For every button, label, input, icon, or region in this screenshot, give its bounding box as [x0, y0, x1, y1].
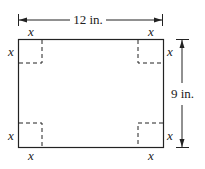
- corner-cut-top-left: [19, 40, 42, 63]
- x-label-top-right: x: [147, 24, 154, 39]
- height-label: 9 in.: [171, 86, 194, 101]
- x-label-top-left: x: [27, 24, 34, 39]
- x-label-bottom-right: x: [147, 148, 154, 163]
- x-label-right-top: x: [166, 44, 173, 59]
- sheet-rectangle: [19, 40, 164, 148]
- x-label-left-top: x: [7, 44, 14, 59]
- width-label: 12 in.: [73, 12, 103, 27]
- corner-cut-bottom-right: [138, 123, 163, 147]
- corner-cut-bottom-left: [19, 123, 42, 147]
- x-label-bottom-left: x: [27, 148, 34, 163]
- rectangle-diagram: 12 in. 9 in. x x x x x x x x: [0, 0, 205, 169]
- x-label-right-bottom: x: [166, 128, 173, 143]
- corner-cut-top-right: [138, 40, 163, 63]
- x-label-left-bottom: x: [7, 128, 14, 143]
